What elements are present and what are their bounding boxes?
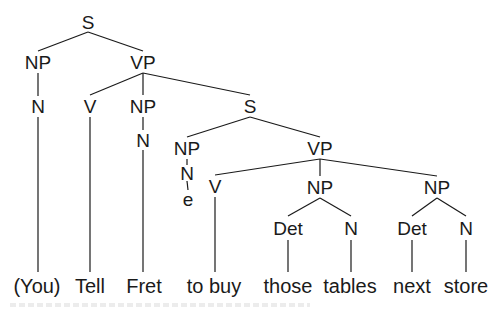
tree-edge — [90, 73, 143, 95]
tree-node-det: Det — [273, 219, 303, 238]
tree-edge — [143, 73, 250, 95]
tree-edge — [320, 159, 437, 176]
sentence-word: (You) — [13, 276, 60, 296]
tree-node-np: NP — [174, 139, 200, 158]
tree-edge — [88, 32, 143, 51]
sentence-word: next — [393, 276, 431, 296]
tree-edge — [250, 117, 320, 137]
sentence-word: those — [264, 276, 313, 296]
tree-node-n: N — [31, 97, 45, 116]
tree-node-n: N — [344, 219, 358, 238]
tree-node-s: S — [244, 97, 257, 116]
tree-node-n: N — [180, 164, 194, 183]
sentence-word: store — [444, 276, 488, 296]
tree-edge — [437, 198, 466, 216]
sentence-word: Tell — [75, 276, 105, 296]
tree-node-np: NP — [130, 97, 156, 116]
tree-node-vp: VP — [130, 53, 155, 72]
tree-node-v: V — [84, 97, 97, 116]
sentence-word: to buy — [187, 276, 241, 296]
tree-edge — [215, 159, 320, 175]
tree-node-s: S — [82, 13, 95, 32]
tree-edge — [187, 117, 250, 137]
tree-node-e: e — [183, 190, 194, 209]
tree-node-np: NP — [25, 53, 51, 72]
tree-edge — [38, 32, 88, 51]
sentence-word: tables — [323, 276, 376, 296]
tree-node-det: Det — [397, 219, 427, 238]
tree-node-np: NP — [424, 178, 450, 197]
sentence-word: Fret — [126, 276, 162, 296]
tree-node-n: N — [459, 219, 473, 238]
syntax-tree-diagram: SNPVPNVNPSNNPVPNVNPNPeDetNDetN (You)Tell… — [0, 0, 501, 313]
tree-edge — [288, 198, 320, 216]
tree-node-v: V — [209, 177, 222, 196]
tree-edge — [320, 198, 351, 216]
tree-edge — [412, 198, 437, 216]
tree-node-n: N — [136, 131, 150, 150]
tree-edges — [0, 0, 501, 313]
faint-caption-artifact — [10, 303, 310, 307]
tree-node-np: NP — [307, 178, 333, 197]
tree-node-vp: VP — [307, 139, 332, 158]
